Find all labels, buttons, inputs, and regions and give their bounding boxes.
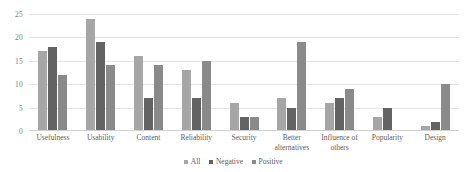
bar bbox=[134, 56, 143, 131]
legend-label: Negative bbox=[216, 158, 243, 166]
bar-chart: 25 20 15 10 5 0 UsefulnessUsabilityConte… bbox=[0, 0, 467, 172]
x-axis-label: Influence of others bbox=[316, 133, 364, 152]
y-axis: 25 20 15 10 5 0 bbox=[0, 14, 27, 131]
plot-area bbox=[29, 14, 459, 131]
legend-label: Positive bbox=[259, 158, 283, 166]
y-axis-tick: 10 bbox=[15, 80, 23, 89]
bar bbox=[250, 117, 259, 131]
bar bbox=[373, 117, 382, 131]
bar bbox=[240, 117, 249, 131]
bar bbox=[277, 98, 286, 131]
bar bbox=[48, 47, 57, 131]
legend-swatch-icon bbox=[209, 160, 213, 164]
bar-group bbox=[172, 14, 220, 131]
chart-legend: AllNegativePositive bbox=[0, 158, 467, 166]
legend-swatch-icon bbox=[184, 160, 188, 164]
bar bbox=[192, 98, 201, 131]
bar-group bbox=[77, 14, 125, 131]
bar bbox=[58, 75, 67, 131]
bar bbox=[182, 70, 191, 131]
bar-group bbox=[316, 14, 364, 131]
bar bbox=[154, 65, 163, 131]
bar bbox=[144, 98, 153, 131]
bar bbox=[383, 108, 392, 131]
x-axis-label: Usefulness bbox=[29, 133, 77, 152]
x-axis-label: Security bbox=[220, 133, 268, 152]
legend-label: All bbox=[191, 158, 201, 166]
bar bbox=[38, 51, 47, 131]
bar-group bbox=[268, 14, 316, 131]
bar-group bbox=[29, 14, 77, 131]
legend-item[interactable]: All bbox=[184, 158, 200, 166]
y-axis-tick: 25 bbox=[15, 10, 23, 19]
y-axis-tick: 5 bbox=[19, 103, 23, 112]
bar-group bbox=[411, 14, 459, 131]
bar-group bbox=[363, 14, 411, 131]
bar bbox=[202, 61, 211, 131]
legend-swatch-icon bbox=[252, 160, 256, 164]
bar-group bbox=[125, 14, 173, 131]
bar bbox=[230, 103, 239, 131]
legend-item[interactable]: Negative bbox=[209, 158, 243, 166]
bar bbox=[335, 98, 344, 131]
x-axis-label: Content bbox=[125, 133, 173, 152]
x-axis-label: Better alternatives bbox=[268, 133, 316, 152]
y-axis-tick: 0 bbox=[19, 127, 23, 136]
bar bbox=[96, 42, 105, 131]
bar bbox=[106, 65, 115, 131]
x-axis-line bbox=[29, 130, 459, 131]
bar-group bbox=[220, 14, 268, 131]
x-axis-label: Reliability bbox=[172, 133, 220, 152]
bar bbox=[325, 103, 334, 131]
y-axis-tick: 20 bbox=[15, 33, 23, 42]
bar bbox=[86, 19, 95, 131]
y-axis-tick: 15 bbox=[15, 56, 23, 65]
x-axis-labels: UsefulnessUsabilityContentReliabilitySec… bbox=[29, 133, 459, 152]
x-axis-label: Usability bbox=[77, 133, 125, 152]
x-axis-label: Design bbox=[411, 133, 459, 152]
legend-item[interactable]: Positive bbox=[252, 158, 283, 166]
bar bbox=[287, 108, 296, 131]
bar bbox=[441, 84, 450, 131]
bar bbox=[345, 89, 354, 131]
x-axis-label: Popularity bbox=[363, 133, 411, 152]
bar bbox=[297, 42, 306, 131]
bar-groups bbox=[29, 14, 459, 131]
